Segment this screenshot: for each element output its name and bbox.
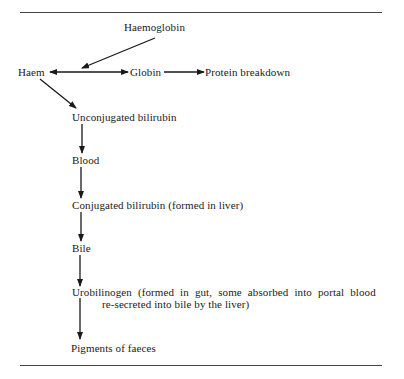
node-urobilinogen-line2: re-secreted into bile by the liver) [102, 298, 249, 310]
node-urobilinogen-line1: Urobilinogen (formed in gut, some absorb… [72, 286, 376, 298]
node-haemoglobin: Haemoglobin [124, 21, 185, 33]
arrow-haemoglobin-split [82, 38, 155, 68]
node-protein-breakdown: Protein breakdown [205, 66, 290, 78]
node-conjugated-bilirubin: Conjugated bilirubin (formed in liver) [72, 199, 243, 211]
node-unconjugated-bilirubin: Unconjugated bilirubin [72, 111, 177, 123]
node-globin: Globin [130, 66, 161, 78]
node-haem: Haem [18, 66, 45, 78]
arrow-haem-unconjugated [40, 79, 76, 108]
node-blood: Blood [72, 154, 99, 166]
node-bile: Bile [72, 242, 91, 254]
node-pigments-of-faeces: Pigments of faeces [71, 342, 156, 354]
arrows-layer [0, 0, 404, 379]
